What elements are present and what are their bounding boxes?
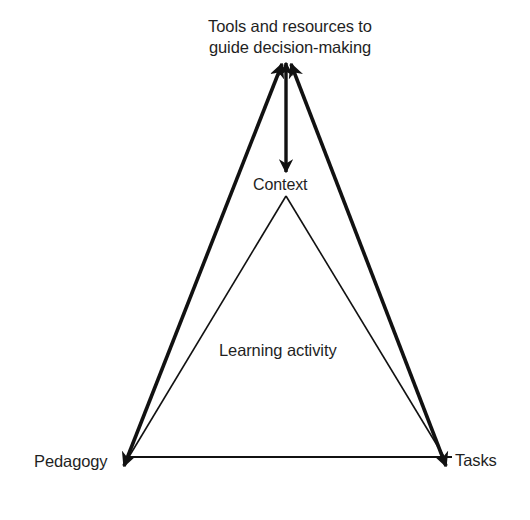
arrow-tools-pedagogy (124, 64, 282, 466)
node-pedagogy: Pedagogy (34, 451, 108, 471)
edge-context-pedagogy (127, 196, 286, 460)
edge-context-tasks (286, 196, 446, 460)
node-tools-resources-line1: Tools and resources to (185, 16, 395, 37)
node-tasks: Tasks (455, 450, 497, 470)
node-context: Context (253, 175, 307, 195)
node-tools-resources: Tools and resources to guide decision-ma… (185, 16, 395, 58)
arrow-tools-tasks (291, 64, 446, 466)
learning-activity-diagram (0, 0, 530, 520)
inner-triangle (125, 196, 452, 460)
node-learning-activity: Learning activity (219, 340, 337, 360)
outer-arrows (124, 63, 446, 466)
node-tools-resources-line2: guide decision-making (185, 37, 395, 58)
